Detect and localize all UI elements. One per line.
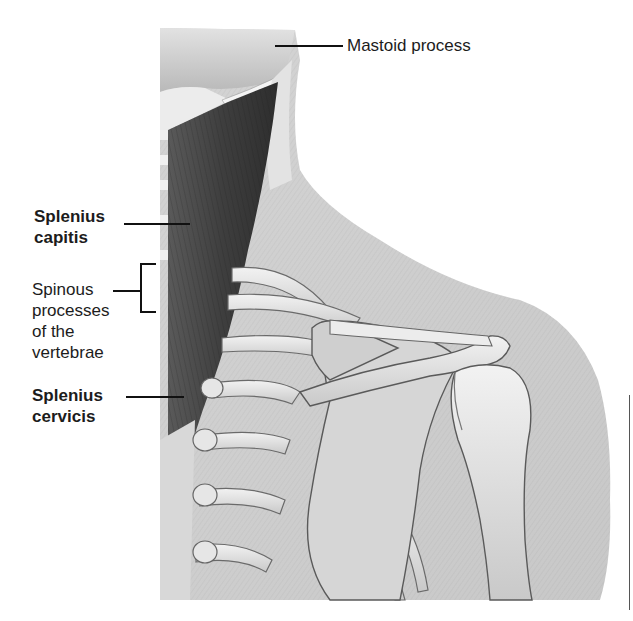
splenius-capitis-leader-line	[124, 223, 190, 225]
label-splenius-capitis-line2: capitis	[34, 227, 105, 248]
label-mastoid-process: Mastoid process	[347, 35, 471, 56]
vertebral-column	[160, 420, 195, 600]
splenius-cervicis-leader-line	[126, 396, 184, 398]
label-splenius-cervicis-line2: cervicis	[32, 406, 103, 427]
image-edge-line	[629, 395, 630, 610]
spinous-bracket	[140, 263, 156, 313]
label-splenius-capitis: Splenius capitis	[34, 206, 105, 248]
mastoid-leader-line	[275, 45, 343, 47]
label-spinous-line3: of the	[32, 321, 109, 342]
label-splenius-capitis-line1: Splenius	[34, 206, 105, 227]
label-spinous-line2: processes	[32, 300, 109, 321]
label-spinous-line4: vertebrae	[32, 342, 109, 363]
label-splenius-cervicis: Splenius cervicis	[32, 385, 103, 427]
spinous-leader-line	[113, 290, 140, 292]
label-spinous-processes: Spinous processes of the vertebrae	[32, 279, 109, 363]
label-splenius-cervicis-line1: Splenius	[32, 385, 103, 406]
label-spinous-line1: Spinous	[32, 279, 109, 300]
